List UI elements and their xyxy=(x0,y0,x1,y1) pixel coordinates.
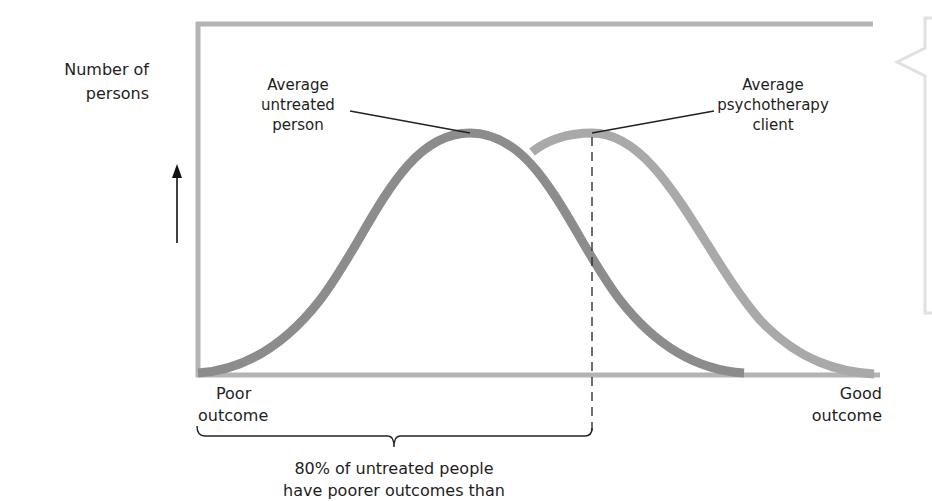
x-axis-left-label: Poor outcome xyxy=(198,383,268,427)
client-leader-line xyxy=(592,111,714,133)
annotation-line: psychotherapy xyxy=(717,95,829,115)
bracket-note: 80% of untreated people have poorer outc… xyxy=(283,458,505,501)
untreated-leader-line xyxy=(350,111,470,133)
annotation-line: Average xyxy=(717,75,829,95)
x-axis-left-label-line: outcome xyxy=(198,405,268,427)
annotation-line: untreated xyxy=(261,95,335,115)
bracket-note-line: 80% of untreated people xyxy=(283,458,505,480)
x-axis-right-label: Good outcome xyxy=(812,383,882,427)
y-axis-label-line: Number of xyxy=(64,58,149,82)
up-arrow-icon xyxy=(172,164,182,243)
x-axis-right-label-line: Good xyxy=(812,383,882,405)
psychotherapy-client-curve xyxy=(532,133,874,374)
annotation-line: Average xyxy=(261,75,335,95)
side-callout-bubble xyxy=(897,18,932,313)
y-axis-label-line: persons xyxy=(64,82,149,106)
bracket-note-line: have poorer outcomes than xyxy=(283,480,505,501)
x-axis-right-label-line: outcome xyxy=(812,405,882,427)
annotation-line: person xyxy=(261,115,335,135)
y-axis-label: Number of persons xyxy=(64,58,149,106)
untreated-person-curve xyxy=(198,133,744,373)
annotation-line: client xyxy=(717,115,829,135)
percentile-bracket xyxy=(197,426,592,447)
psychotherapy-client-annotation: Average psychotherapy client xyxy=(717,75,829,135)
x-axis-left-label-line: Poor xyxy=(198,383,268,405)
untreated-person-annotation: Average untreated person xyxy=(261,75,335,135)
